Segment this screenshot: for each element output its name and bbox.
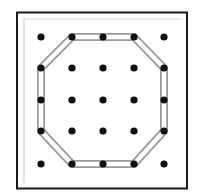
peg	[37, 127, 44, 134]
peg	[68, 33, 75, 40]
peg	[99, 127, 106, 134]
peg	[99, 96, 106, 103]
peg	[130, 33, 137, 40]
peg	[68, 96, 75, 103]
peg	[37, 64, 44, 71]
peg	[160, 127, 167, 134]
peg	[37, 96, 44, 103]
peg	[160, 33, 167, 40]
peg	[130, 96, 137, 103]
peg	[99, 160, 106, 167]
peg	[130, 127, 137, 134]
peg	[37, 160, 44, 167]
peg	[99, 33, 106, 40]
peg	[160, 96, 167, 103]
peg	[160, 64, 167, 71]
peg	[37, 33, 44, 40]
peg	[130, 64, 137, 71]
peg	[160, 160, 167, 167]
peg	[68, 64, 75, 71]
peg	[68, 127, 75, 134]
peg	[99, 64, 106, 71]
geoboard-diagram	[0, 0, 197, 192]
peg	[68, 160, 75, 167]
peg	[130, 160, 137, 167]
